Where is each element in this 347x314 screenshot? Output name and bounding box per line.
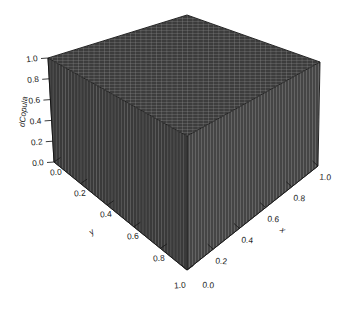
x-tick-label: 0.2 <box>215 256 228 267</box>
z-tick-label: 1.0 <box>26 53 39 64</box>
y-tick-label: 0.6 <box>127 231 140 242</box>
y-tick-label: 0.2 <box>74 188 87 199</box>
surface-plot-figure: 1.0 0.8 0.6 0.4 0.2 0.0 0.0 0.2 0.4 0.6 … <box>0 0 347 314</box>
x-tick-label: 0.8 <box>293 193 306 204</box>
z-tick-label: 0.2 <box>30 136 43 147</box>
y-tick-label: 1.0 <box>174 280 187 291</box>
x-tick-label: 1.0 <box>319 172 332 183</box>
x-tick-label: 0.4 <box>241 235 254 246</box>
z-tick-label: 0.8 <box>27 74 40 85</box>
y-tick-label: 0.0 <box>50 167 63 178</box>
y-tick-label: 0.4 <box>100 209 113 220</box>
z-tick-label: 0.4 <box>29 115 42 126</box>
y-tick-label: 0.8 <box>153 253 166 264</box>
z-tick-label: 0.6 <box>28 95 41 106</box>
x-tick-label: 0.0 <box>202 280 215 291</box>
z-tick-label: 0.0 <box>32 157 45 168</box>
persp-3d-canvas: 1.0 0.8 0.6 0.4 0.2 0.0 0.0 0.2 0.4 0.6 … <box>0 0 347 314</box>
x-tick-label: 0.6 <box>267 214 280 225</box>
